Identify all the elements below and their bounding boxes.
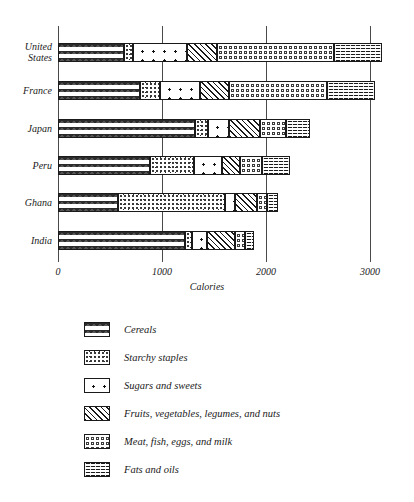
bar-segment-meat-fish-eggs-milk bbox=[240, 156, 262, 175]
bar-segment-cereals bbox=[58, 156, 150, 175]
bar-segment-cereals bbox=[58, 43, 124, 62]
bar-segment-fats-and-oils bbox=[245, 231, 253, 250]
bar-row bbox=[0, 193, 414, 212]
legend-label: Cereals bbox=[124, 324, 156, 335]
bar-segment-meat-fish-eggs-milk bbox=[217, 43, 333, 62]
legend-swatch-cereals bbox=[84, 322, 110, 337]
legend-label: Meat, fish, eggs, and milk bbox=[124, 436, 232, 447]
bar-segment-starchy-staples bbox=[150, 156, 194, 175]
bar-segment-cereals bbox=[58, 119, 195, 138]
bar-segment-fats-and-oils bbox=[327, 81, 375, 100]
bar-segment-starchy-staples bbox=[140, 81, 160, 100]
bar-segment-fruits-vegetables bbox=[222, 156, 240, 175]
plot-area: 0100020003000 UnitedStatesFranceJapanPer… bbox=[0, 0, 414, 300]
bar-segment-fats-and-oils bbox=[267, 193, 278, 212]
bar-segment-fruits-vegetables bbox=[207, 231, 235, 250]
bar-row bbox=[0, 231, 414, 250]
legend-label: Starchy staples bbox=[124, 352, 187, 363]
bar-segment-fruits-vegetables bbox=[229, 119, 260, 138]
bar-segment-meat-fish-eggs-milk bbox=[260, 119, 286, 138]
bar-segment-starchy-staples bbox=[118, 193, 225, 212]
legend-swatch-meat-fish-eggs-milk bbox=[84, 434, 110, 449]
bar-row bbox=[0, 43, 414, 62]
chart-figure: 0100020003000 UnitedStatesFranceJapanPer… bbox=[0, 0, 414, 502]
legend-item: Sugars and sweets bbox=[84, 374, 202, 396]
legend-item: Meat, fish, eggs, and milk bbox=[84, 430, 232, 452]
bar-segment-cereals bbox=[58, 231, 185, 250]
legend-item: Cereals bbox=[84, 318, 156, 340]
legend-item: Fats and oils bbox=[84, 458, 179, 480]
bar-segment-sugars-and-sweets bbox=[192, 231, 207, 250]
bar-segment-fruits-vegetables bbox=[200, 81, 228, 100]
x-tick-label-0: 0 bbox=[33, 266, 83, 277]
x-tick-label-1000: 1000 bbox=[137, 266, 187, 277]
bar-segment-fats-and-oils bbox=[334, 43, 383, 62]
legend-swatch-fruits-vegetables bbox=[84, 406, 110, 421]
bar-segment-fats-and-oils bbox=[262, 156, 290, 175]
bar-row bbox=[0, 119, 414, 138]
legend-swatch-sugars-and-sweets bbox=[84, 378, 110, 393]
bar-segment-starchy-staples bbox=[124, 43, 134, 62]
bar-segment-meat-fish-eggs-milk bbox=[257, 193, 267, 212]
legend-item: Starchy staples bbox=[84, 346, 187, 368]
legend-item: Fruits, vegetables, legumes, and nuts bbox=[84, 402, 280, 424]
bar-segment-fruits-vegetables bbox=[187, 43, 217, 62]
bar-segment-fats-and-oils bbox=[286, 119, 310, 138]
bar-segment-meat-fish-eggs-milk bbox=[229, 81, 328, 100]
bar-segment-meat-fish-eggs-milk bbox=[235, 231, 245, 250]
x-tick-label-2000: 2000 bbox=[241, 266, 291, 277]
chart-legend: CerealsStarchy staplesSugars and sweetsF… bbox=[0, 318, 414, 502]
bar-segment-fruits-vegetables bbox=[235, 193, 257, 212]
bar-segment-sugars-and-sweets bbox=[133, 43, 187, 62]
bar-segment-starchy-staples bbox=[185, 231, 192, 250]
x-tick-label-3000: 3000 bbox=[345, 266, 395, 277]
bar-segment-sugars-and-sweets bbox=[160, 81, 201, 100]
bar-segment-sugars-and-sweets bbox=[225, 193, 235, 212]
legend-label: Fruits, vegetables, legumes, and nuts bbox=[124, 408, 280, 419]
bar-segment-sugars-and-sweets bbox=[194, 156, 222, 175]
legend-swatch-fats-and-oils bbox=[84, 462, 110, 477]
legend-label: Fats and oils bbox=[124, 464, 179, 475]
x-axis-title: Calories bbox=[0, 281, 414, 292]
legend-swatch-starchy-staples bbox=[84, 350, 110, 365]
bar-row bbox=[0, 81, 414, 100]
bar-segment-sugars-and-sweets bbox=[208, 119, 229, 138]
legend-label: Sugars and sweets bbox=[124, 380, 202, 391]
bar-segment-cereals bbox=[58, 81, 140, 100]
bar-segment-cereals bbox=[58, 193, 118, 212]
bar-segment-starchy-staples bbox=[195, 119, 207, 138]
bar-row bbox=[0, 156, 414, 175]
